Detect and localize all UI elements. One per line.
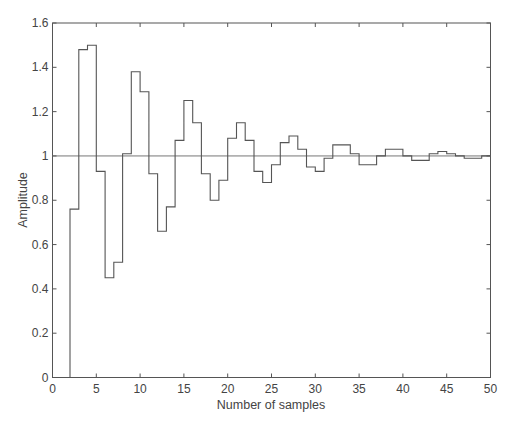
x-tick-label: 50 <box>484 382 498 396</box>
y-axis-label: Amplitude <box>16 172 30 228</box>
step-response-chart: 05101520253035404550 00.20.40.60.811.21.… <box>0 0 513 425</box>
x-tick-label: 45 <box>440 382 454 396</box>
y-tick-label: 0.6 <box>32 238 49 252</box>
x-tick-label: 25 <box>265 382 279 396</box>
x-tick-label: 35 <box>352 382 366 396</box>
y-tick-label: 0.8 <box>32 193 49 207</box>
x-tick-label: 40 <box>396 382 410 396</box>
y-tick-label: 0.4 <box>32 282 49 296</box>
y-tick-label: 1.4 <box>32 60 49 74</box>
data-series <box>53 45 491 377</box>
x-axis-label: Number of samples <box>217 398 325 412</box>
y-tick-label: 1.2 <box>32 105 49 119</box>
plot-frame <box>53 23 491 378</box>
x-tick-label: 10 <box>133 382 147 396</box>
x-tick-label: 15 <box>177 382 191 396</box>
y-axis-ticks: 00.20.40.60.811.21.41.6 <box>32 16 491 385</box>
x-tick-label: 0 <box>49 382 56 396</box>
x-tick-label: 5 <box>93 382 100 396</box>
stairs-line <box>53 45 491 377</box>
x-axis-ticks: 05101520253035404550 <box>49 23 497 396</box>
x-tick-label: 20 <box>221 382 235 396</box>
y-tick-label: 0.2 <box>32 326 49 340</box>
y-tick-label: 0 <box>42 371 49 385</box>
y-tick-label: 1.6 <box>32 16 49 30</box>
x-tick-label: 30 <box>309 382 323 396</box>
y-tick-label: 1 <box>42 149 49 163</box>
